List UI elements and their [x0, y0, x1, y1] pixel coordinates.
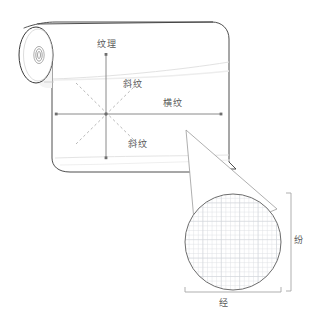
diagram-canvas [0, 0, 327, 324]
label-cross-grain: 横纹 [163, 99, 182, 108]
label-warp: 经 [219, 299, 229, 308]
weft-bracket [286, 193, 291, 291]
weft-bracket-path [286, 193, 291, 291]
axis-tick-up [105, 53, 108, 56]
fabric-roll-core-inner [38, 51, 41, 58]
label-grain-vertical: 纹理 [97, 40, 116, 49]
label-twill-lower: 斜纹 [128, 140, 147, 149]
fabric-grain-diagram: 纹理 斜纹 横纹 斜纹 纷 经 [0, 0, 327, 324]
axis-tick-right [220, 113, 223, 116]
axis-center-node [104, 112, 107, 115]
axis-tick-down [105, 156, 108, 159]
magnified-weave-circle [185, 194, 281, 290]
axis-tick-left [55, 113, 58, 116]
label-weft: 纷 [294, 236, 304, 245]
label-twill-upper: 斜纹 [123, 80, 142, 89]
